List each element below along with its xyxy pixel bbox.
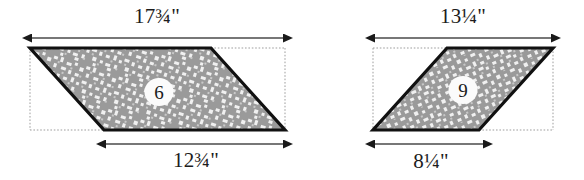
diagram-canvas: 17¾" 12¾" 13¼" 8¼" 6 9 <box>0 0 584 180</box>
piece-9-top-dimension-label: 13¼" <box>383 6 543 27</box>
piece-6-number: 6 <box>145 83 173 102</box>
piece-6-bottom-dimension-label: 12¾" <box>56 150 336 171</box>
piece-6-top-dimension-label: 17¾" <box>0 6 314 27</box>
piece-9-number: 9 <box>449 81 477 100</box>
piece-9-bottom-dimension-label: 8¼" <box>375 151 487 172</box>
